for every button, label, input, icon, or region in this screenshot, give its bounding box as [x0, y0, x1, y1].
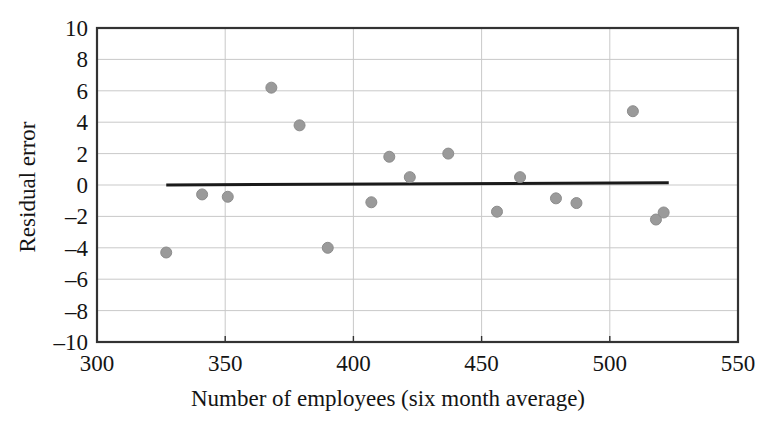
x-tick-label: 400	[336, 352, 371, 375]
data-point	[571, 198, 582, 209]
x-tick-label: 500	[593, 352, 628, 375]
data-point	[515, 172, 526, 183]
y-tick-label: 10	[20, 17, 88, 40]
y-axis-title: Residual error	[15, 97, 41, 277]
x-tick-label: 450	[464, 352, 499, 375]
data-point	[197, 189, 208, 200]
data-point	[222, 191, 233, 202]
x-tick-label: 300	[80, 352, 115, 375]
data-point	[627, 106, 638, 117]
y-tick-label: 8	[20, 48, 88, 71]
data-point	[294, 120, 305, 131]
data-point	[161, 247, 172, 258]
data-point	[491, 206, 502, 217]
x-axis-title: Number of employees (six month average)	[0, 386, 776, 412]
data-point	[443, 148, 454, 159]
data-point	[404, 172, 415, 183]
x-tick-label: 550	[721, 352, 756, 375]
y-tick-label: –8	[20, 299, 88, 322]
data-point	[550, 193, 561, 204]
data-point	[384, 151, 395, 162]
x-tick-label: 350	[208, 352, 243, 375]
y-tick-label: –10	[20, 331, 88, 354]
data-point	[322, 242, 333, 253]
chart-canvas	[0, 0, 776, 422]
data-point	[366, 197, 377, 208]
data-point	[658, 207, 669, 218]
data-point	[266, 82, 277, 93]
residual-plot-figure: 1086420–2–4–6–8–10 300350400450500550 Re…	[0, 0, 776, 422]
data-points-group	[161, 82, 669, 258]
